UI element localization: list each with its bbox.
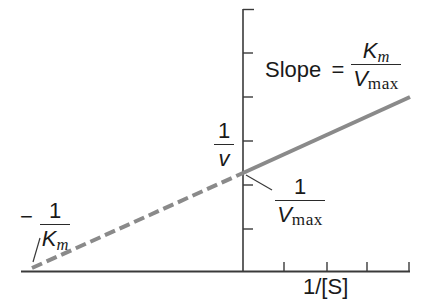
y-axis-label-numerator: 1: [218, 120, 230, 142]
x-axis-label: 1/[S]: [303, 274, 348, 300]
x-axis-ticks: [284, 262, 409, 271]
y-intercept-leader-line: [246, 175, 272, 190]
y-axis-label-bar: [214, 144, 234, 145]
y-axis-label-denominator: v: [219, 148, 230, 170]
data-solid-line: [243, 97, 410, 173]
x-intercept-fraction-bar: [40, 224, 70, 225]
x-intercept-sign: −: [20, 204, 33, 230]
y-intercept-label: 1 Vmax: [275, 176, 325, 226]
slope-equals: =: [331, 57, 344, 82]
y-intercept-numerator: 1: [294, 176, 306, 198]
y-axis-label: 1 v: [214, 120, 234, 170]
y-axis-ticks: [243, 10, 254, 230]
slope-numerator: Km: [363, 40, 390, 62]
x-intercept-numerator: 1: [49, 200, 61, 222]
slope-label: Slope =: [265, 57, 348, 83]
x-intercept-leader-line: [33, 238, 40, 262]
y-intercept-fraction-bar: [275, 200, 325, 201]
x-intercept-denominator: Km: [42, 228, 69, 250]
slope-prefix: Slope: [265, 57, 321, 82]
y-intercept-denominator: Vmax: [277, 204, 323, 226]
slope-fraction: Km Vmax: [351, 40, 401, 90]
slope-fraction-bar: [351, 64, 401, 65]
x-intercept-label: 1 Km: [40, 200, 70, 250]
slope-denominator: Vmax: [353, 68, 399, 90]
